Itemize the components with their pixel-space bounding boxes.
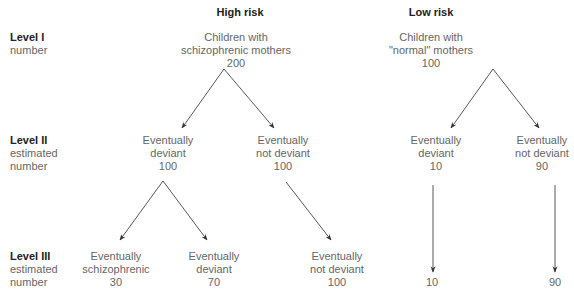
arrow-layer: [0, 0, 574, 299]
arrow-icon: [493, 69, 539, 128]
arrow-icon: [451, 69, 493, 128]
arrow-icon: [182, 69, 224, 128]
arrow-icon: [224, 69, 274, 128]
arrow-icon: [120, 181, 163, 240]
arrow-icon: [286, 182, 331, 240]
arrow-icon: [163, 181, 207, 240]
